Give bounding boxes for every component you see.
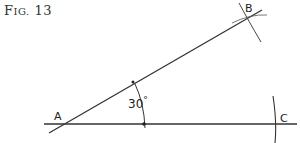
arc-c [273,96,276,143]
label-b: B [245,2,253,15]
label-a: A [54,110,62,123]
arc-intersection-dot [142,122,146,126]
line-ab [49,10,262,133]
arc-ray-dot [132,81,135,84]
angle-construction-diagram: A B C 30° [0,0,300,143]
angle-label: 30° [128,95,148,111]
angle-value: 30 [128,97,143,111]
degree-symbol: ° [143,95,148,105]
label-c: C [280,112,288,125]
